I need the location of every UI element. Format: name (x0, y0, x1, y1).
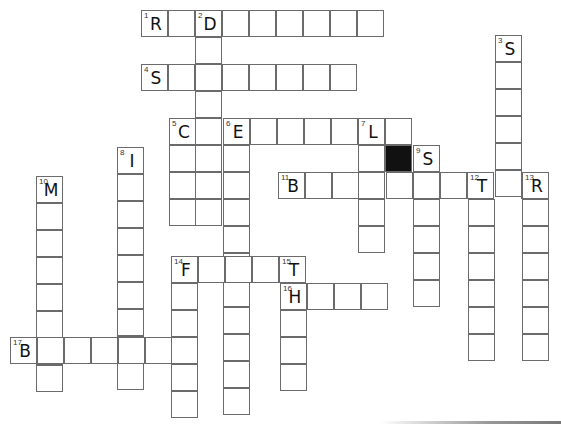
crossword-cell[interactable] (280, 364, 307, 391)
crossword-cell[interactable] (413, 172, 440, 199)
crossword-cell[interactable] (440, 172, 467, 199)
crossword-cell[interactable] (280, 310, 307, 337)
crossword-cell[interactable] (330, 10, 357, 37)
crossword-cell[interactable]: 12T (467, 172, 494, 199)
crossword-cell[interactable] (358, 172, 385, 199)
crossword-cell[interactable] (169, 145, 196, 172)
crossword-cell[interactable] (413, 253, 440, 280)
crossword-cell[interactable]: 1R (141, 10, 168, 37)
crossword-cell[interactable] (522, 334, 549, 361)
crossword-cell[interactable]: 14F (171, 256, 198, 283)
crossword-cell[interactable] (169, 172, 196, 199)
crossword-cell[interactable] (168, 64, 195, 91)
crossword-cell[interactable]: 13R (522, 172, 549, 199)
crossword-cell[interactable] (522, 307, 549, 334)
crossword-cell[interactable] (195, 172, 222, 199)
crossword-cell[interactable] (276, 64, 303, 91)
crossword-cell[interactable] (195, 64, 222, 91)
crossword-cell[interactable]: 17B (10, 337, 37, 364)
crossword-cell[interactable] (305, 172, 332, 199)
crossword-cell[interactable] (522, 253, 549, 280)
crossword-cell[interactable] (276, 10, 303, 37)
crossword-cell[interactable] (225, 256, 252, 283)
crossword-cell[interactable] (223, 172, 250, 199)
crossword-cell[interactable] (223, 307, 250, 334)
crossword-cell[interactable] (330, 64, 357, 91)
crossword-cell[interactable] (195, 145, 222, 172)
crossword-cell[interactable] (195, 37, 222, 64)
crossword-cell[interactable] (36, 311, 63, 338)
crossword-cell[interactable] (223, 388, 250, 415)
crossword-cell[interactable] (332, 172, 359, 199)
crossword-cell[interactable] (331, 118, 358, 145)
crossword-cell[interactable] (168, 10, 195, 37)
crossword-cell[interactable] (468, 280, 495, 307)
crossword-cell[interactable]: 6E (223, 118, 250, 145)
crossword-cell[interactable] (37, 337, 64, 364)
crossword-cell[interactable] (249, 10, 276, 37)
crossword-cell[interactable] (36, 203, 63, 230)
crossword-cell[interactable] (117, 201, 144, 228)
crossword-cell[interactable] (171, 337, 198, 364)
crossword-cell[interactable] (252, 256, 279, 283)
crossword-cell[interactable] (222, 10, 249, 37)
crossword-cell[interactable] (468, 253, 495, 280)
crossword-cell[interactable] (171, 310, 198, 337)
crossword-cell[interactable] (117, 255, 144, 282)
crossword-cell[interactable] (223, 145, 250, 172)
crossword-cell[interactable] (171, 283, 198, 310)
crossword-cell[interactable] (195, 199, 222, 226)
crossword-cell[interactable] (36, 284, 63, 311)
crossword-cell[interactable] (495, 116, 522, 143)
crossword-cell[interactable] (358, 145, 385, 172)
crossword-cell[interactable] (413, 280, 440, 307)
crossword-cell[interactable] (223, 361, 250, 388)
crossword-cell[interactable] (495, 170, 522, 197)
crossword-cell[interactable] (522, 226, 549, 253)
crossword-cell[interactable] (495, 89, 522, 116)
crossword-cell[interactable] (361, 283, 388, 310)
crossword-cell[interactable] (304, 118, 331, 145)
crossword-cell[interactable] (117, 363, 144, 390)
crossword-cell[interactable]: 15T (279, 256, 306, 283)
crossword-cell[interactable] (357, 10, 384, 37)
crossword-cell[interactable] (277, 118, 304, 145)
crossword-cell[interactable] (413, 226, 440, 253)
crossword-cell[interactable] (468, 307, 495, 334)
crossword-cell[interactable] (280, 337, 307, 364)
crossword-cell[interactable] (223, 226, 250, 253)
crossword-cell[interactable] (522, 280, 549, 307)
crossword-cell[interactable] (468, 226, 495, 253)
crossword-cell[interactable] (117, 309, 144, 336)
crossword-cell[interactable] (468, 334, 495, 361)
crossword-cell[interactable]: 2D (195, 10, 222, 37)
crossword-cell[interactable] (117, 174, 144, 201)
crossword-cell[interactable] (36, 230, 63, 257)
crossword-cell[interactable] (171, 391, 198, 418)
crossword-cell[interactable] (223, 280, 250, 307)
crossword-cell[interactable] (64, 337, 91, 364)
crossword-cell[interactable] (118, 337, 145, 364)
crossword-cell[interactable]: 10M (36, 176, 63, 203)
crossword-cell[interactable] (222, 64, 249, 91)
crossword-cell[interactable] (171, 364, 198, 391)
crossword-cell[interactable] (169, 199, 196, 226)
crossword-cell[interactable] (223, 334, 250, 361)
crossword-cell[interactable] (307, 283, 334, 310)
crossword-cell[interactable] (198, 256, 225, 283)
crossword-cell[interactable] (195, 91, 222, 118)
crossword-cell[interactable] (36, 365, 63, 392)
crossword-cell[interactable] (117, 228, 144, 255)
crossword-cell[interactable] (117, 282, 144, 309)
crossword-cell[interactable] (413, 199, 440, 226)
crossword-cell[interactable] (249, 64, 276, 91)
crossword-cell[interactable]: 8I (117, 147, 144, 174)
crossword-cell[interactable] (495, 143, 522, 170)
crossword-cell[interactable] (495, 62, 522, 89)
crossword-cell[interactable]: 4S (141, 64, 168, 91)
crossword-cell[interactable]: 11B (278, 172, 305, 199)
crossword-cell[interactable] (36, 257, 63, 284)
crossword-cell[interactable] (358, 199, 385, 226)
crossword-cell[interactable] (522, 199, 549, 226)
crossword-cell[interactable]: 3S (495, 35, 522, 62)
